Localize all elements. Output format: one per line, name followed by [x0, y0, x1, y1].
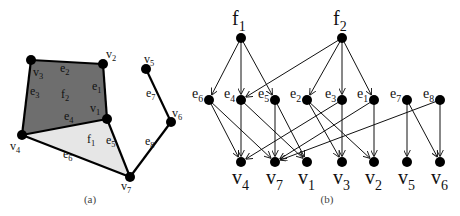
- node-f2: [337, 33, 347, 43]
- label-b-v5: v5: [398, 166, 415, 193]
- node-e8: [435, 95, 445, 105]
- label-b-v1: v1: [298, 166, 315, 193]
- caption-b: (b): [321, 193, 334, 206]
- label-b-v7: v7: [266, 166, 283, 193]
- node-e1: [369, 95, 379, 105]
- node-e6: [204, 95, 214, 105]
- node-e2: [302, 95, 312, 105]
- label-e8: e8: [145, 134, 155, 150]
- label-b-v3: v3: [333, 166, 350, 193]
- label-v4: v4: [10, 139, 21, 155]
- figure-canvas: v1v2v3v4v5v6v7e1e2e3e4e5e6e7e8f2f1 f1f2e…: [0, 0, 460, 216]
- label-b-v2: v2: [365, 166, 382, 193]
- node-e4: [236, 95, 246, 105]
- node-f1: [236, 33, 246, 43]
- label-v6: v6: [172, 106, 182, 122]
- node-e7: [402, 95, 412, 105]
- label-v2: v2: [106, 47, 116, 63]
- label-b-f1: f1: [232, 7, 246, 34]
- label-b-f2: f2: [333, 7, 347, 34]
- arc-e5-v1: [277, 104, 304, 157]
- node-e3: [337, 95, 347, 105]
- arc-e7-v6: [409, 104, 437, 157]
- node-e5: [270, 95, 280, 105]
- label-b-e4: e4: [224, 86, 235, 104]
- label-b-e6: e6: [192, 86, 203, 104]
- label-b-v6: v6: [431, 166, 448, 193]
- arc-e6-v4: [211, 104, 238, 157]
- label-b-e1: e1: [357, 86, 368, 104]
- label-v5: v5: [144, 52, 154, 68]
- label-b-e8: e8: [423, 86, 434, 104]
- label-b-v4: v4: [232, 166, 249, 193]
- arc-e4-v1: [244, 103, 303, 158]
- label-b-e7: e7: [390, 86, 401, 104]
- label-b-e5: e5: [258, 86, 269, 104]
- vertex-v4: [17, 130, 27, 140]
- planar-graph-figure-a: v1v2v3v4v5v6v7e1e2e3e4e5e6e7e8f2f1: [10, 47, 182, 195]
- label-b-e3: e3: [325, 86, 336, 104]
- caption-a: (a): [84, 193, 97, 206]
- label-b-e2: e2: [290, 86, 301, 104]
- vertex-v1: [102, 114, 112, 124]
- vertex-v3: [26, 55, 36, 65]
- incidence-graph-figure-b: f1f2e6e4e5e2e3e1e7e8v4v7v1v3v2v5v6: [192, 7, 448, 193]
